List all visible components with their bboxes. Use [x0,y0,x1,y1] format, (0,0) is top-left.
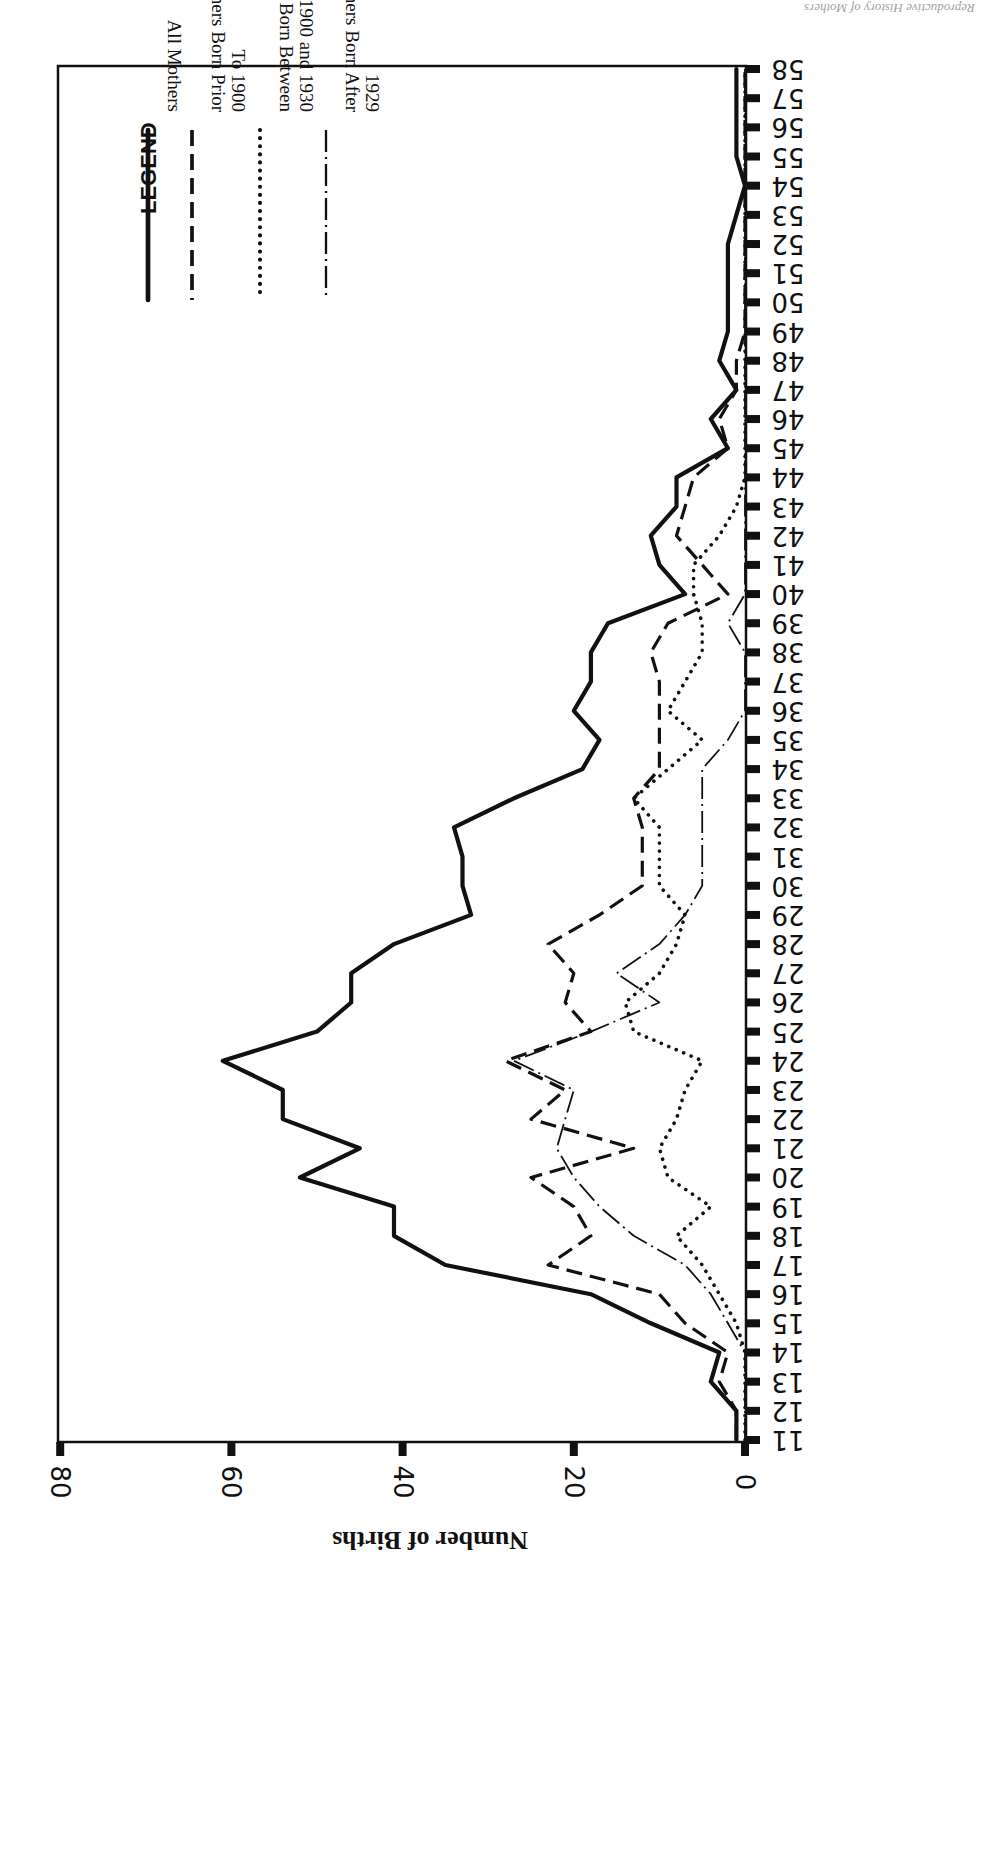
births-tick-label: 40 [388,1465,418,1498]
births-tick [399,1442,407,1456]
age-tick [746,1115,760,1123]
age-tick-label: 43 [771,492,804,522]
age-tick [746,182,760,190]
age-tick-label: 53 [771,200,804,230]
age-tick-label: 33 [771,783,804,813]
age-tick [746,590,760,598]
age-tick-label: 25 [771,1017,804,1047]
age-tick [746,1378,760,1386]
births-tick-label: 20 [559,1465,589,1498]
age-tick [746,911,760,919]
age-tick-label: 22 [771,1104,804,1134]
age-tick [746,969,760,977]
age-tick-label: 40 [771,579,804,609]
plot-frame [58,66,746,1442]
age-tick-label: 38 [771,637,804,667]
age-tick [746,123,760,131]
age-tick [746,1319,760,1327]
age-tick [746,1086,760,1094]
age-tick [746,998,760,1006]
births-tick [570,1442,578,1456]
age-tick-label: 55 [771,142,804,172]
y-axis-title-text: Number of Births [332,1526,528,1555]
age-tick [746,269,760,277]
births-axis-ticks: 020406080 [45,1442,760,1499]
births-by-age-chart: 1112131415161718192021222324252627282930… [0,0,995,1853]
series-line-dash-dot [514,69,745,1440]
age-tick-label: 13 [771,1367,804,1397]
age-tick [746,473,760,481]
age-tick [746,386,760,394]
age-tick [746,503,760,511]
age-tick [746,1348,760,1356]
age-tick [746,532,760,540]
legend-label: Mothers Born Between [276,0,297,112]
age-tick [746,1203,760,1211]
age-tick [746,853,760,861]
legend-label: Mothers Born Prior [208,0,229,113]
age-tick [746,1290,760,1298]
age-tick [746,357,760,365]
y-axis-title: Number of Births [332,1526,528,1555]
age-tick-label: 52 [771,229,804,259]
age-tick-label: 56 [771,112,804,142]
age-tick [746,678,760,686]
age-tick-label: 32 [771,812,804,842]
age-tick-label: 48 [771,346,804,376]
age-tick [746,1407,760,1415]
age-tick [746,1057,760,1065]
age-tick-label: 14 [771,1337,804,1367]
age-tick [746,298,760,306]
legend-label-line2: 1929 [362,74,383,112]
age-tick-label: 45 [771,433,804,463]
age-tick-label: 54 [771,171,804,201]
age-tick-label: 28 [771,929,804,959]
age-tick [746,619,760,627]
age-tick-label: 51 [771,258,804,288]
age-tick [746,65,760,73]
age-tick [746,940,760,948]
age-tick [746,648,760,656]
age-tick-label: 58 [771,54,804,84]
age-tick [746,211,760,219]
age-tick-label: 12 [771,1396,804,1426]
age-tick-label: 49 [771,317,804,347]
age-tick-label: 42 [771,521,804,551]
age-tick-label: 23 [771,1075,804,1105]
age-tick [746,736,760,744]
age-tick [746,765,760,773]
legend-label: All Mothers [164,20,185,112]
age-tick [746,153,760,161]
births-tick-label: 60 [216,1465,246,1498]
births-tick-label: 0 [730,1474,760,1491]
age-tick-label: 20 [771,1162,804,1192]
age-tick-label: 19 [771,1192,804,1222]
legend-label-line2: To 1900 [228,49,249,112]
legend-label-line2: 1900 and 1930 [296,0,317,112]
age-tick [746,328,760,336]
age-tick-label: 21 [771,1133,804,1163]
births-tick [227,1442,235,1456]
age-tick [746,1261,760,1269]
age-tick-label: 30 [771,871,804,901]
series-lines [223,69,745,1440]
births-tick-label: 80 [45,1465,75,1498]
age-tick [746,444,760,452]
age-tick-label: 29 [771,900,804,930]
age-tick-label: 35 [771,725,804,755]
age-tick-label: 15 [771,1308,804,1338]
age-tick [746,707,760,715]
series-line-dashed [505,69,745,1440]
age-tick [746,94,760,102]
age-tick-label: 17 [771,1250,804,1280]
age-tick-label: 36 [771,696,804,726]
age-tick [746,1028,760,1036]
age-tick-label: 41 [771,550,804,580]
age-axis-ticks: 1112131415161718192021222324252627282930… [746,54,805,1455]
legend: LEGENDAll MothersMothers Born PriorTo 19… [136,0,383,300]
age-tick-label: 57 [771,83,804,113]
age-tick-label: 39 [771,608,804,638]
age-tick-label: 50 [771,287,804,317]
age-tick-label: 34 [771,754,804,784]
age-tick [746,415,760,423]
